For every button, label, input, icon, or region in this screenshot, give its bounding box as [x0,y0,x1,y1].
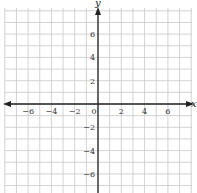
x-tick-label: 4 [142,107,147,116]
y-tick-label: 6 [90,30,95,39]
x-tick-label: −6 [22,107,34,116]
x-tick-label: 0 [91,107,96,116]
y-tick-label: 4 [90,53,95,62]
x-tick-label: −2 [69,107,81,116]
x-tick-label: 6 [165,107,170,116]
y-tick-label: −6 [83,170,95,179]
x-tick-label: −4 [46,107,58,116]
x-axis-left-arrow-icon [3,101,11,107]
x-tick-label: 2 [119,107,124,116]
y-tick-label: 2 [90,77,95,86]
y-tick-label: −4 [83,147,95,156]
y-axis-label: y [94,0,101,8]
x-axis-label: x [191,98,197,109]
x-tick-labels: −6−4−20246 [22,107,170,116]
y-tick-label: −2 [83,123,95,132]
coordinate-plane: x y −6−4−20246 642−2−4−6 [0,0,197,193]
